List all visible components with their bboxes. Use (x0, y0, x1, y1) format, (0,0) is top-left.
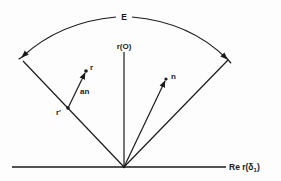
point-r-label: r (90, 63, 93, 72)
point-r-prime (66, 106, 70, 110)
origin-point (123, 166, 126, 169)
point-r (84, 69, 88, 73)
point-n (164, 77, 167, 80)
arc-e-right (132, 17, 227, 59)
point-r-prime-label: r' (56, 108, 61, 117)
arc-label-e: E (121, 12, 127, 22)
vector-an-label: an (80, 87, 89, 96)
horizontal-axis-label: Re r(δ1) (229, 162, 260, 173)
right-boundary-ray (124, 60, 228, 167)
vector-n (124, 81, 165, 167)
vertical-axis-label: r(O) (117, 42, 132, 51)
diagram-svg: Re r(δ1) r(O) E r r' an n (0, 0, 281, 181)
vector-n-label: n (171, 72, 176, 81)
arc-e-left (22, 17, 116, 57)
left-boundary-ray (23, 61, 124, 167)
diagram-canvas: Re r(δ1) r(O) E r r' an n (0, 0, 281, 181)
